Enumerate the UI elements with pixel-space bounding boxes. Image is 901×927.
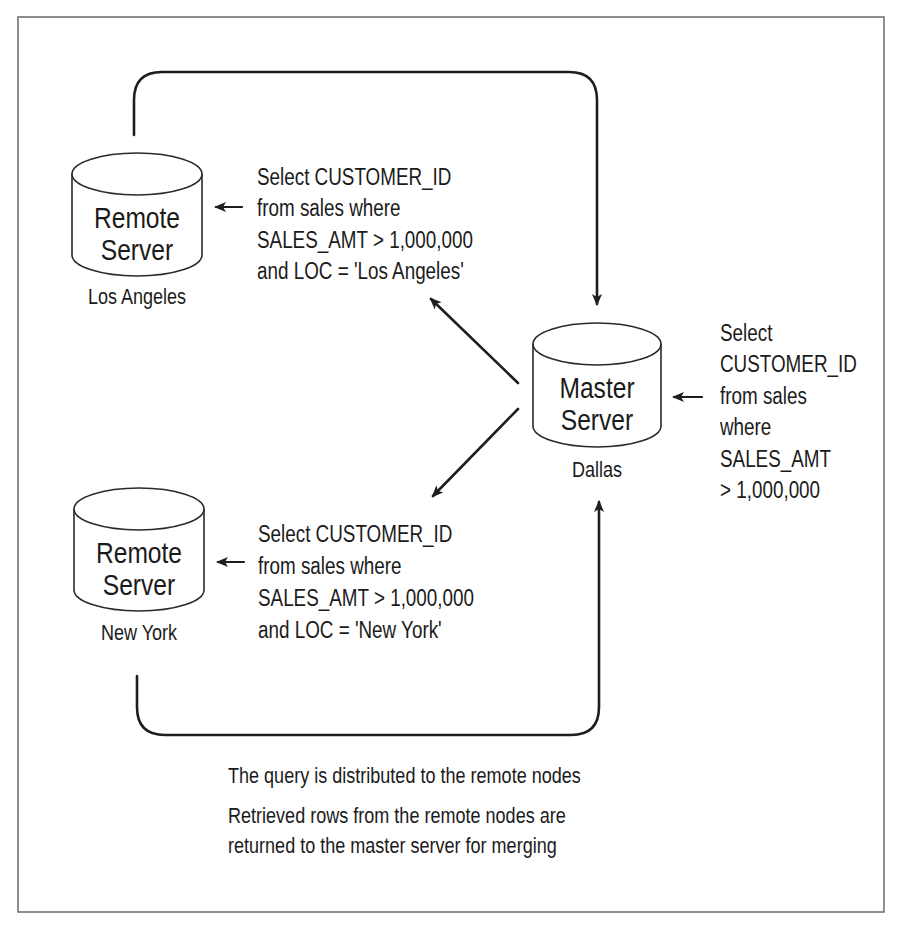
query-master-line: Select bbox=[720, 320, 773, 345]
query-text-ny: Select CUSTOMER_ID from sales where SALE… bbox=[258, 521, 474, 642]
query-ny-line: Select CUSTOMER_ID bbox=[258, 521, 452, 547]
caption-distribution: The query is distributed to the remote n… bbox=[228, 763, 581, 787]
query-la-line: and LOC = 'Los Angeles' bbox=[257, 258, 464, 283]
captions: The query is distributed to the remote n… bbox=[228, 763, 581, 857]
query-la-line: Select CUSTOMER_ID bbox=[257, 164, 451, 190]
caption-return-line2: returned to the master server for mergin… bbox=[228, 833, 557, 857]
distributed-query-diagram: Remote Server Los Angeles Remote Server … bbox=[0, 0, 901, 927]
query-master-line: SALES_AMT bbox=[720, 446, 831, 472]
node-master-title-line1: Master bbox=[559, 371, 634, 405]
distribute-arrow-to-la bbox=[431, 299, 518, 383]
node-master-location: Dallas bbox=[572, 457, 622, 481]
query-ny-line: SALES_AMT > 1,000,000 bbox=[258, 585, 474, 611]
node-la-title-line1: Remote bbox=[94, 201, 180, 235]
caption-return-line1: Retrieved rows from the remote nodes are bbox=[228, 803, 566, 827]
node-la-location: Los Angeles bbox=[88, 284, 186, 308]
node-ny-title-line2: Server bbox=[103, 568, 175, 602]
query-text-master: Select CUSTOMER_ID from sales where SALE… bbox=[719, 320, 857, 502]
node-la-title-line2: Server bbox=[101, 233, 173, 267]
query-la-line: from sales where bbox=[257, 195, 400, 220]
query-master-line: where bbox=[719, 414, 771, 439]
distribute-arrow-to-ny bbox=[433, 409, 518, 496]
query-master-line: CUSTOMER_ID bbox=[720, 351, 857, 377]
query-master-line: > 1,000,000 bbox=[720, 477, 820, 502]
node-ny-title-line1: Remote bbox=[96, 536, 182, 570]
query-ny-line: from sales where bbox=[258, 553, 401, 578]
node-ny-location: New York bbox=[101, 620, 178, 644]
query-text-la: Select CUSTOMER_ID from sales where SALE… bbox=[257, 164, 473, 283]
query-master-line: from sales bbox=[720, 383, 807, 408]
query-ny-line: and LOC = 'New York' bbox=[258, 617, 442, 642]
node-master-title-line2: Server bbox=[561, 403, 633, 437]
query-la-line: SALES_AMT > 1,000,000 bbox=[257, 227, 473, 253]
